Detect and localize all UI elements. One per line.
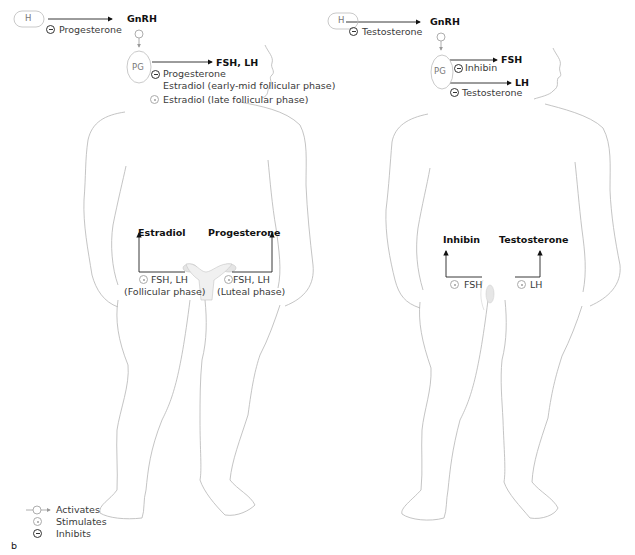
inhibits-icon (151, 70, 160, 79)
female-pituitary-label: PG (132, 62, 144, 72)
female-activates-connector (135, 30, 143, 47)
legend-activates-label: Activates (56, 504, 100, 515)
inhibits-icon (454, 64, 463, 73)
male-gnrh-label: GnRH (430, 16, 460, 27)
male-pg-inhibitor-1: Inhibin (465, 62, 497, 73)
female-gonad-right-output: Progesterone (208, 227, 280, 238)
female-gonad-left-stimulus: FSH, LH (151, 274, 188, 285)
female-body-outline (84, 45, 313, 519)
male-gonad-right-output: Testosterone (499, 234, 568, 245)
male-gonad-left-stimulus: FSH (464, 279, 482, 290)
male-pg-output-1: FSH (501, 54, 522, 65)
stimulates-icon (139, 275, 148, 284)
stimulates-icon (224, 275, 233, 284)
female-gonad-right-phase: (Luteal phase) (217, 286, 285, 297)
female-gonad-left-phase: (Follicular phase) (124, 286, 206, 297)
stimulates-icon (150, 95, 159, 104)
female-gonad-left-output: Estradiol (138, 227, 186, 238)
male-gonad-right-stimulus: LH (530, 279, 542, 290)
male-activates-connector (437, 33, 445, 50)
inhibits-minus-icon (33, 529, 42, 538)
female-pg-stimulator: Estradiol (late follicular phase) (163, 94, 308, 105)
legend-stimulates-label: Stimulates (56, 516, 107, 527)
panel-label: b (11, 540, 17, 551)
male-gonad-left-output: Inhibin (443, 234, 480, 245)
stimulates-icon (450, 280, 459, 289)
male-hypothalamus-label: H (338, 15, 344, 25)
female-pg-output: FSH, LH (216, 57, 258, 68)
stimulates-icon (517, 280, 526, 289)
male-pituitary-label: PG (434, 66, 446, 76)
male-body-outline (386, 48, 620, 520)
female-gonad-right-stimulus: FSH, LH (233, 274, 270, 285)
female-pg-inhibitor-1: Progesterone (163, 68, 226, 79)
female-hypothalamus-label: H (25, 13, 31, 23)
female-gnrh-label: GnRH (127, 13, 157, 24)
female-h-inhibitor: Progesterone (59, 24, 122, 35)
female-pg-inhibitor-2: Estradiol (early-mid follicular phase) (163, 80, 335, 91)
activates-arrow-icon (26, 506, 50, 514)
inhibits-icon (46, 25, 55, 34)
stimulates-circle-icon (33, 517, 42, 526)
legend-inhibits-label: Inhibits (56, 528, 91, 539)
male-pg-inhibitor-2: Testosterone (462, 87, 522, 98)
male-h-inhibitor: Testosterone (362, 26, 422, 37)
inhibits-icon (349, 27, 358, 36)
inhibits-icon (450, 88, 459, 97)
